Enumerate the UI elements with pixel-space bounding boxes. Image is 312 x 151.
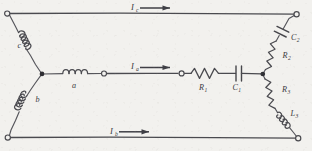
label-inductor-c: c — [18, 41, 22, 50]
current-arrow-Ic — [140, 5, 170, 10]
label-L3-base: L — [290, 109, 296, 118]
label-Ib-base: I — [109, 126, 114, 136]
branch-b-wire-lower — [9, 112, 19, 136]
terminal-mid-right[interactable] — [179, 71, 184, 76]
label-Ic-sub: c — [136, 7, 139, 13]
label-L3: L 3 — [290, 109, 299, 119]
bottom-conductor-wire — [9, 137, 297, 138]
junction-delta-right — [260, 72, 265, 77]
terminal-bottom-left[interactable] — [5, 135, 10, 140]
label-Ia-sub: a — [136, 66, 139, 72]
label-C1-sub: 1 — [238, 87, 241, 93]
inductor-a-coil — [63, 70, 88, 74]
label-R2-sub: 2 — [288, 55, 291, 61]
terminal-top-right[interactable] — [294, 12, 299, 17]
label-R1-sub: 1 — [205, 87, 208, 93]
label-R2-base: R — [282, 51, 288, 60]
capacitor-C1-group — [236, 66, 262, 81]
label-inductor-a: a — [72, 81, 76, 90]
label-Ib: I b — [109, 126, 118, 137]
resistor-R1-group — [191, 68, 236, 78]
label-R2: R 2 — [282, 51, 292, 61]
branch-C2-wire-upper — [283, 15, 294, 29]
label-Ia-base: I — [130, 61, 135, 71]
branch-b-wire-upper — [27, 74, 42, 95]
label-R3: R 3 — [281, 85, 291, 95]
inductor-b-coil — [15, 91, 27, 110]
junction-wye-center — [40, 72, 45, 77]
label-C2-sub: 2 — [297, 37, 300, 43]
label-L3-sub: 3 — [295, 113, 299, 119]
circuit-diagram: I c I a I b c a b R 1 C 1 C 2 R 2 — [0, 0, 312, 151]
top-conductor-group — [9, 13, 296, 14]
current-arrow-Ia — [140, 65, 170, 70]
branch-R3-wire-lower — [275, 108, 278, 112]
capacitor-C2-plate-lower — [274, 31, 286, 37]
circuit-schematic-canvas: I c I a I b c a b R 1 C 1 C 2 R 2 — [0, 0, 312, 151]
label-R1: R 1 — [198, 83, 208, 93]
resistor-R1-zigzag — [191, 68, 219, 78]
branch-c-wire-upper — [10, 15, 19, 33]
label-Ic: I c — [130, 2, 139, 13]
inductor-L3-coil — [277, 112, 290, 128]
label-R1-base: R — [198, 83, 204, 92]
terminal-bottom-right[interactable] — [296, 136, 301, 141]
bottom-conductor-group — [9, 137, 297, 138]
label-inductor-b: b — [36, 95, 40, 104]
resistor-R3-zigzag — [265, 79, 275, 108]
label-R3-sub: 3 — [287, 89, 291, 95]
label-Ic-base: I — [130, 2, 135, 12]
branch-R2-wire-upper — [276, 36, 279, 42]
resistor-R2-zigzag — [266, 41, 277, 70]
label-Ib-sub: b — [115, 131, 118, 137]
terminal-mid-left[interactable] — [102, 71, 107, 76]
wye-source-group — [9, 15, 101, 136]
branch-c-wire-lower — [26, 49, 41, 74]
label-C2: C 2 — [291, 33, 300, 43]
current-arrow-Ib — [119, 129, 149, 134]
terminal-top-left[interactable] — [5, 11, 10, 16]
branch-L3-wire-lower — [290, 128, 297, 136]
top-conductor-wire — [9, 13, 296, 14]
label-Ia: I a — [130, 61, 139, 72]
label-R3-base: R — [281, 85, 287, 94]
label-C1: C 1 — [233, 83, 242, 93]
